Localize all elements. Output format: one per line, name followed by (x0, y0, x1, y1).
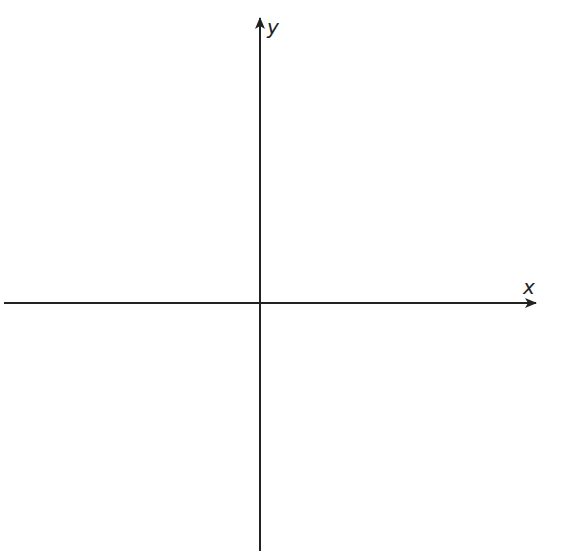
x-axis-label: x (522, 275, 535, 299)
y-axis-label: y (266, 15, 280, 39)
coordinate-plane: x y (0, 0, 572, 551)
